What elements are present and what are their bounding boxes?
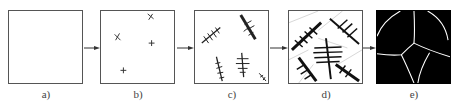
nuclei-icon	[101, 11, 174, 83]
panel-b-nuclei	[100, 10, 175, 84]
arrow-b-to-c	[177, 43, 194, 53]
label-d: d)	[288, 88, 364, 100]
label-b: b)	[100, 88, 176, 100]
impinging-dendrites-icon	[289, 11, 362, 83]
grain-boundaries-icon	[377, 11, 450, 83]
label-c: c)	[194, 88, 270, 100]
arrow-c-to-d	[270, 43, 288, 53]
label-e: e)	[376, 88, 452, 100]
arrow-d-to-e	[363, 43, 376, 53]
arrow-a-to-b	[84, 43, 100, 53]
label-a: a)	[8, 88, 84, 100]
panel-e-grains	[376, 10, 451, 84]
panel-c-dendrites	[194, 10, 269, 84]
panel-d-impinging	[288, 10, 363, 84]
panel-a-empty	[8, 10, 83, 84]
dendrites-icon	[195, 11, 268, 83]
